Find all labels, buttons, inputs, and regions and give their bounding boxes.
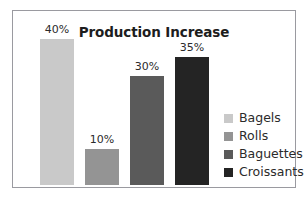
legend-swatch-icon bbox=[224, 168, 233, 177]
legend-label: Bagels bbox=[239, 112, 281, 125]
bar-group-rolls[interactable]: 10% bbox=[85, 149, 119, 186]
legend-swatch-icon bbox=[224, 114, 233, 123]
legend-item-baguettes[interactable]: Baguettes bbox=[224, 145, 304, 163]
legend-swatch-icon bbox=[224, 150, 233, 159]
bar-value-label: 35% bbox=[180, 42, 204, 53]
legend-item-bagels[interactable]: Bagels bbox=[224, 109, 304, 127]
bar-rolls[interactable] bbox=[85, 149, 119, 186]
legend-label: Rolls bbox=[239, 130, 268, 143]
chart-legend: Bagels Rolls Baguettes Croissants bbox=[224, 109, 304, 181]
bar-group-baguettes[interactable]: 30% bbox=[130, 76, 164, 186]
legend-label: Baguettes bbox=[239, 148, 303, 161]
legend-label: Croissants bbox=[239, 166, 304, 179]
legend-item-rolls[interactable]: Rolls bbox=[224, 127, 304, 145]
bar-group-croissants[interactable]: 35% bbox=[175, 57, 209, 185]
bar-value-label: 30% bbox=[135, 61, 159, 72]
bar-bagels[interactable] bbox=[40, 39, 74, 185]
plot-area: 40% 10% 30% 35% bbox=[39, 41, 225, 187]
bar-croissants[interactable] bbox=[175, 57, 209, 185]
legend-swatch-icon bbox=[224, 132, 233, 141]
chart-container: Production Increase 40% 10% 30% 35% Bage… bbox=[12, 10, 296, 188]
bar-group-bagels[interactable]: 40% bbox=[40, 39, 74, 185]
bar-value-label: 40% bbox=[45, 24, 69, 35]
legend-item-croissants[interactable]: Croissants bbox=[224, 163, 304, 181]
bar-baguettes[interactable] bbox=[130, 76, 164, 186]
bar-value-label: 10% bbox=[90, 134, 114, 145]
